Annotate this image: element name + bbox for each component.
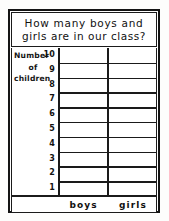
chart-title-line-2: girls are in our class? [22,30,146,43]
y-tick-3: 3 [49,152,55,167]
worksheet-canvas: How many boys and girls are in our class… [0,0,169,221]
y-tick-9: 9 [49,63,55,78]
y-axis-ticks: 10987654321 [12,48,58,195]
y-tick-10: 10 [43,48,55,63]
category-cell-blank [12,197,58,212]
chart-title-box: How many boys and girls are in our class… [11,12,157,47]
category-label-girls: girls [109,197,157,212]
column-divider-right [107,48,109,195]
y-tick-2: 2 [49,166,55,181]
column-divider-left [58,48,60,195]
chart-title-line-1: How many boys and [25,17,144,30]
y-tick-7: 7 [49,92,55,107]
y-tick-4: 4 [49,137,55,152]
y-tick-1: 1 [49,181,55,196]
chart-plot-area: Number of children 10987654321 [11,48,157,196]
y-tick-8: 8 [49,78,55,93]
y-tick-6: 6 [49,107,55,122]
y-tick-5: 5 [49,122,55,137]
category-label-row: boys girls [11,196,157,213]
category-label-boys: boys [60,197,107,212]
